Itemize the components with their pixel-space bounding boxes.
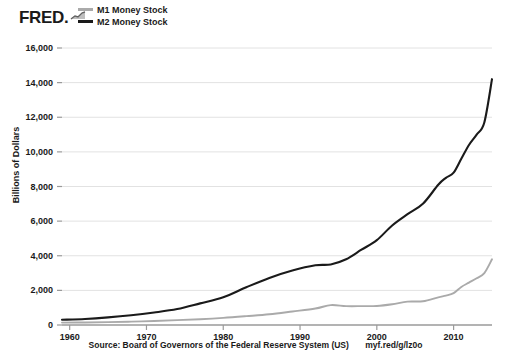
y-axis-label: Billions of Dollars <box>11 105 21 225</box>
short-url[interactable]: myf.red/g/lz0o <box>365 340 422 350</box>
series-line-m2 <box>62 79 492 320</box>
gridlines <box>57 48 492 325</box>
y-tick-label: 2,000 <box>5 286 53 295</box>
y-tick-label: 0 <box>5 321 53 330</box>
plot-area <box>0 0 511 359</box>
fred-chart: FRED . M1 Money Stock M2 Money Stock 02,… <box>0 0 511 359</box>
y-tick-label: 16,000 <box>5 44 53 53</box>
series-line-m1 <box>62 259 492 322</box>
y-tick-label: 14,000 <box>5 79 53 88</box>
chart-footer: Source: Board of Governors of the Federa… <box>0 340 511 350</box>
source-text: Source: Board of Governors of the Federa… <box>89 340 349 350</box>
y-tick-label: 4,000 <box>5 252 53 261</box>
